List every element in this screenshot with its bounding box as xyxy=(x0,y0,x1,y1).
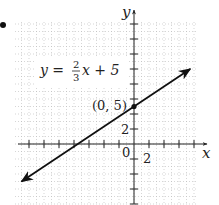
y-tick-label: 2 xyxy=(121,122,129,137)
graph-figure: y x 0 2 2 (0, 5) y = 2 3 x + 5 xyxy=(0,0,219,205)
list-bullet xyxy=(0,22,6,28)
svg-text:x + 5: x + 5 xyxy=(82,62,120,78)
svg-text:3: 3 xyxy=(73,72,79,83)
x-axis-label: x xyxy=(202,144,211,162)
grid-lines xyxy=(15,22,196,205)
y-axis-label: y xyxy=(121,3,131,21)
svg-text:2: 2 xyxy=(73,59,79,70)
origin-label: 0 xyxy=(122,145,130,160)
coordinate-plane: y x 0 2 2 (0, 5) y = 2 3 x + 5 xyxy=(0,0,219,205)
svg-text:y =: y = xyxy=(39,62,64,78)
point-label: (0, 5) xyxy=(92,98,127,113)
y-intercept-point xyxy=(131,104,136,109)
x-tick-label: 2 xyxy=(143,151,151,166)
equation-label: y = 2 3 x + 5 xyxy=(36,56,128,86)
